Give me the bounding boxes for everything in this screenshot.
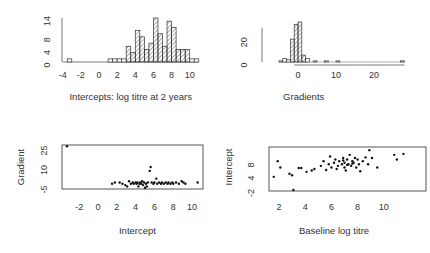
x-axis-label: Gradients bbox=[283, 91, 324, 102]
x-tick-label: 0 bbox=[295, 70, 300, 80]
histogram-bar bbox=[181, 49, 186, 62]
data-point bbox=[342, 157, 344, 159]
y-tick-label: 8 bbox=[42, 37, 52, 42]
histogram-bar bbox=[153, 18, 158, 62]
data-point bbox=[350, 165, 352, 167]
data-point bbox=[368, 149, 370, 151]
data-point bbox=[184, 183, 186, 185]
data-point bbox=[329, 155, 331, 157]
x-tick-label: 20 bbox=[369, 70, 379, 80]
data-point bbox=[338, 160, 340, 162]
data-point bbox=[172, 183, 174, 185]
data-point bbox=[153, 181, 155, 183]
x-tick-label: -2 bbox=[77, 70, 85, 80]
histogram-bar bbox=[167, 21, 172, 62]
histogram-bar bbox=[126, 46, 131, 62]
x-tick-label: 10 bbox=[187, 202, 197, 212]
histogram-bar bbox=[172, 27, 177, 62]
histogram-bar bbox=[113, 59, 118, 62]
histogram-bar bbox=[336, 61, 340, 62]
data-point bbox=[118, 181, 120, 183]
data-point bbox=[393, 154, 395, 156]
data-point bbox=[311, 169, 313, 171]
data-point bbox=[155, 177, 157, 179]
data-point bbox=[376, 166, 378, 168]
data-point bbox=[322, 160, 324, 162]
x-tick-label: 2 bbox=[276, 202, 281, 212]
data-point bbox=[142, 184, 144, 186]
data-point bbox=[367, 163, 369, 165]
data-point bbox=[346, 158, 348, 160]
histogram-bar bbox=[287, 60, 291, 62]
y-tick-label: -5 bbox=[39, 185, 49, 193]
histogram-gradients: 02001020Gradients bbox=[215, 0, 430, 120]
x-tick-label: -2 bbox=[75, 202, 83, 212]
data-point bbox=[175, 181, 177, 183]
histogram-bar bbox=[140, 37, 145, 62]
data-point bbox=[279, 166, 281, 168]
histogram-bar bbox=[144, 49, 149, 62]
x-tick-label: 8 bbox=[169, 70, 174, 80]
x-tick-label: 6 bbox=[329, 202, 334, 212]
data-point bbox=[111, 183, 113, 185]
data-point bbox=[328, 163, 330, 165]
y-tick-label: 4 bbox=[42, 50, 52, 55]
histogram-bar bbox=[108, 59, 113, 62]
x-axis-label: Baseline log titre bbox=[299, 225, 369, 236]
data-point bbox=[342, 159, 344, 161]
x-tick-label: 10 bbox=[379, 202, 389, 212]
x-tick-label: 0 bbox=[95, 202, 100, 212]
histogram-bar bbox=[149, 43, 154, 62]
x-axis-label: Intercept bbox=[119, 225, 156, 236]
histogram-bar bbox=[325, 61, 329, 62]
x-tick-label: 10 bbox=[331, 70, 341, 80]
histogram-bar bbox=[194, 59, 199, 62]
data-point bbox=[305, 171, 307, 173]
data-point bbox=[128, 180, 130, 182]
x-tick-label: 4 bbox=[133, 70, 138, 80]
y-axis-label: Gradient bbox=[15, 148, 26, 185]
data-point bbox=[335, 168, 337, 170]
histogram-bar bbox=[67, 59, 72, 62]
histogram-bar bbox=[401, 61, 405, 62]
histogram-bar bbox=[294, 24, 298, 62]
y-axis-label: Intercept bbox=[223, 148, 234, 185]
data-point bbox=[345, 169, 347, 171]
x-tick-label: 8 bbox=[355, 202, 360, 212]
scatter-intercept-vs-baseline: -248Intercept246810Baseline log titre bbox=[215, 130, 430, 253]
data-point bbox=[343, 166, 345, 168]
data-point bbox=[196, 181, 198, 183]
scatter-intercept-vs-baseline-svg: -248Intercept246810Baseline log titre bbox=[215, 130, 430, 253]
histogram-bar bbox=[162, 46, 167, 62]
y-tick-label: 8 bbox=[246, 162, 256, 167]
histogram-bar bbox=[185, 49, 190, 62]
histogram-bar bbox=[283, 59, 287, 62]
data-point bbox=[343, 162, 345, 164]
x-tick-label: 4 bbox=[303, 202, 308, 212]
data-point bbox=[334, 158, 336, 160]
histogram-bar bbox=[290, 39, 294, 62]
x-tick-label: 4 bbox=[133, 202, 138, 212]
data-point bbox=[358, 163, 360, 165]
y-tick-label: 4 bbox=[246, 175, 256, 180]
histogram-bar bbox=[298, 22, 302, 62]
data-point bbox=[147, 181, 149, 183]
data-point bbox=[291, 174, 293, 176]
scatter-gradient-vs-intercept: -51025Gradient-20246810Intercept bbox=[0, 130, 215, 253]
x-tick-label: -4 bbox=[59, 70, 67, 80]
data-point bbox=[356, 158, 358, 160]
data-point bbox=[137, 185, 139, 187]
histogram-bar bbox=[117, 59, 122, 62]
y-tick-label: 20 bbox=[239, 37, 249, 47]
data-point bbox=[355, 166, 357, 168]
x-tick-label: 6 bbox=[152, 202, 157, 212]
x-tick-label: 6 bbox=[151, 70, 156, 80]
data-point bbox=[337, 165, 339, 167]
data-point bbox=[351, 162, 353, 164]
data-point bbox=[276, 160, 278, 162]
data-point bbox=[320, 165, 322, 167]
data-point bbox=[354, 157, 356, 159]
data-point bbox=[330, 166, 332, 168]
x-tick-label: 2 bbox=[115, 70, 120, 80]
histogram-bar bbox=[135, 31, 140, 62]
